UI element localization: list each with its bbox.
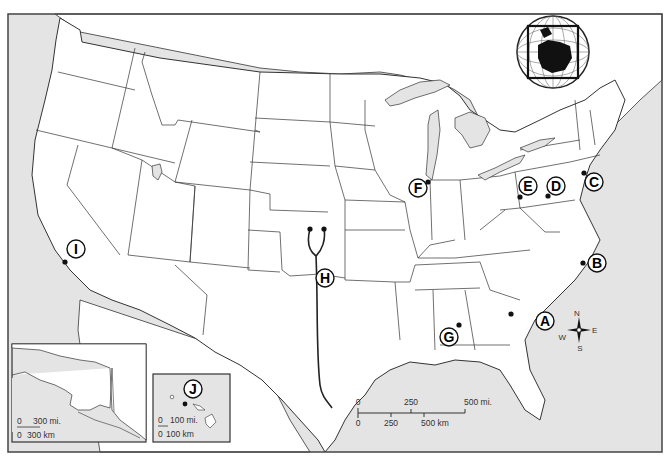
alaska-scale-mi-300: 300 mi. [33, 416, 61, 426]
marker-label-H: H [320, 270, 330, 286]
marker-label-B: B [592, 255, 602, 271]
marker-label-E: E [523, 178, 532, 194]
marker-label-F: F [414, 180, 423, 196]
hawaii-scale-km-0: 0 [158, 429, 163, 439]
scale-mi-0: 0 [356, 397, 361, 407]
marker-label-J: J [189, 381, 197, 397]
hawaii-scale-mi-0: 0 [158, 415, 163, 425]
marker-label-D: D [551, 178, 561, 194]
alaska-scale-km-0: 0 [17, 430, 22, 440]
compass-n: N [574, 309, 580, 318]
compass-w: W [558, 333, 566, 342]
hawaii-island-niihau [170, 395, 174, 399]
scale-km-0: 0 [356, 418, 361, 428]
marker-label-G: G [444, 329, 455, 345]
hawaii-scale-km-100: 100 km [166, 429, 194, 439]
scale-mi-500: 500 mi. [464, 397, 492, 407]
scale-km-250: 250 [384, 418, 398, 428]
marker-label-I: I [74, 241, 78, 257]
alaska-inset: 0 300 mi. 0 300 km [12, 344, 146, 442]
scale-km-500: 500 km [421, 418, 449, 428]
alaska-scale-mi-0: 0 [17, 416, 22, 426]
compass-e: E [592, 326, 597, 335]
globe-inset [517, 16, 589, 88]
marker-label-C: C [589, 174, 599, 190]
compass-s: S [577, 344, 582, 353]
scale-mi-250: 250 [404, 397, 418, 407]
hawaii-scale-mi-100: 100 mi. [170, 415, 198, 425]
us-outline-map: A B C D E F G H I [0, 0, 668, 457]
marker-label-A: A [540, 313, 550, 329]
alaska-scale-km-300: 300 km [27, 430, 55, 440]
hawaii-inset: J 0 100 mi. 0 100 km [153, 374, 230, 442]
